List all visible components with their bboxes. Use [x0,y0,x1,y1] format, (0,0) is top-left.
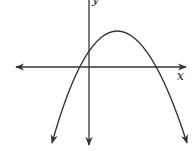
coordinate-graph: x y [0,0,194,151]
x-axis-label: x [177,69,184,83]
parabola-curve [52,31,187,143]
y-axis-label: y [91,0,99,6]
